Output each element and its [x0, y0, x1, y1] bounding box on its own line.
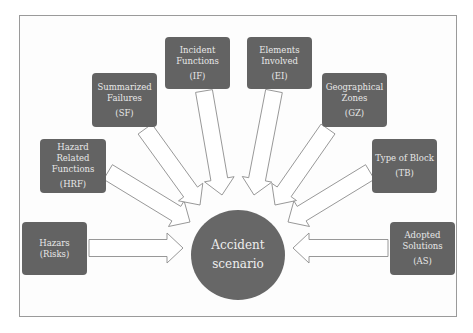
- node-label-line: Hazard: [57, 142, 89, 153]
- node-abbreviation: (HRF): [60, 179, 86, 190]
- node-tb: Type of Block(TB): [372, 139, 437, 193]
- node-label-line: Involved: [261, 56, 298, 67]
- node-abbreviation: (EI): [271, 71, 287, 82]
- node-label-line: Incident: [180, 45, 216, 56]
- node-label-line: Failures: [107, 93, 142, 104]
- node-if: IncidentFunctions(IF): [165, 37, 230, 89]
- arrow-from-hazars: [89, 233, 183, 263]
- node-label-line: Elements: [259, 45, 299, 56]
- node-sf: SummarizedFailures(SF): [92, 73, 157, 127]
- arrow-from-if: [196, 90, 235, 195]
- node-hazars: Hazars(Risks): [22, 222, 87, 275]
- arrow-from-ei: [242, 89, 282, 195]
- node-label-line: Type of Block: [375, 153, 434, 164]
- node-label-line: Hazars: [39, 238, 69, 249]
- arrow-from-as: [293, 233, 388, 263]
- node-label-line: Adopted: [404, 230, 440, 241]
- node-abbreviation: (IF): [190, 71, 206, 82]
- node-abbreviation: (SF): [115, 108, 133, 119]
- node-hrf: HazardRelatedFunctions(HRF): [40, 139, 106, 193]
- node-label-line: Solutions: [402, 241, 442, 252]
- node-abbreviation: (TB): [395, 168, 414, 179]
- node-gz: GeographicalZones(GZ): [322, 73, 387, 127]
- node-label-line: Geographical: [326, 82, 384, 93]
- node-abbreviation: (GZ): [345, 108, 364, 119]
- node-abbreviation: (AS): [413, 256, 432, 267]
- node-label-line: Functions: [52, 164, 95, 175]
- center-label-line2: scenario: [212, 255, 264, 274]
- node-label-line: Related: [56, 153, 89, 164]
- node-label-line: Functions: [176, 56, 219, 67]
- node-ei: ElementsInvolved(EI): [247, 37, 312, 89]
- node-as: AdoptedSolutions(AS): [390, 222, 455, 275]
- node-label-line: (Risks): [40, 249, 70, 260]
- accident-scenario-circle: Accident scenario: [191, 210, 285, 300]
- center-label-line1: Accident: [211, 236, 264, 255]
- node-label-line: Summarized: [97, 82, 151, 93]
- node-label-line: Zones: [342, 93, 368, 104]
